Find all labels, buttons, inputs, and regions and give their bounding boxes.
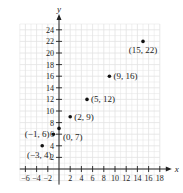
- y-tick-label: 14: [46, 84, 54, 93]
- y-tick-label: 8: [50, 119, 54, 128]
- x-tick-label: 18: [156, 174, 164, 183]
- x-axis-arrow-icon: [166, 167, 172, 172]
- x-tick-label: 2: [68, 174, 72, 183]
- x-tick-label: −4: [32, 174, 41, 183]
- scatter-chart: xy −6−4−22468101214161824681012141618202…: [0, 0, 183, 193]
- y-tick-label: 10: [46, 107, 54, 116]
- data-point: [108, 74, 112, 78]
- plot-area: xy −6−4−22468101214161824681012141618202…: [0, 0, 183, 193]
- data-point: [57, 127, 61, 131]
- data-point: [85, 98, 89, 102]
- x-tick-label: 16: [145, 174, 153, 183]
- data-point-label: (2, 9): [74, 112, 94, 122]
- x-tick-label: 8: [102, 174, 106, 183]
- data-point-label: (0, 7): [63, 132, 83, 142]
- data-point-label: (−3, 4): [27, 150, 52, 160]
- x-tick-label: 10: [111, 174, 119, 183]
- y-tick-label: 12: [46, 95, 54, 104]
- x-tick-label: 12: [122, 174, 130, 183]
- y-tick-label: 18: [46, 61, 54, 70]
- x-tick-label: −6: [21, 174, 30, 183]
- y-tick-label: 22: [46, 37, 54, 46]
- y-tick-label: 24: [46, 26, 54, 35]
- y-axis-arrow-icon: [57, 14, 62, 20]
- y-tick-label: 20: [46, 49, 54, 58]
- data-point-label: (9, 16): [113, 71, 137, 81]
- data-point-label: (−1, 6): [25, 129, 50, 139]
- data-point: [141, 40, 145, 44]
- data-point-label: (5, 12): [91, 94, 115, 104]
- data-point-label: (15, 22): [129, 45, 158, 55]
- x-tick-label: 4: [79, 174, 83, 183]
- x-tick-label: 6: [91, 174, 95, 183]
- y-axis-label: y: [56, 4, 61, 14]
- y-tick-label: 16: [46, 72, 54, 81]
- data-point: [68, 115, 72, 119]
- x-axis-label: x: [174, 164, 179, 174]
- data-point: [52, 132, 56, 136]
- x-tick-label: 14: [133, 174, 141, 183]
- x-tick-label: −2: [44, 174, 53, 183]
- data-point: [40, 144, 44, 148]
